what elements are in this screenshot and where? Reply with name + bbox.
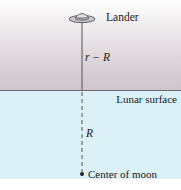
lander-label: Lander: [106, 12, 139, 24]
lander-diagram: Lander r − R Lunar surface R Center of m…: [0, 0, 181, 190]
radius-label: R: [86, 128, 93, 140]
center-dot: [80, 172, 84, 176]
lunar-surface-label: Lunar surface: [116, 94, 177, 105]
center-of-moon-label: Center of moon: [88, 169, 157, 180]
lander-icon: [69, 14, 95, 23]
altitude-label: r − R: [85, 52, 110, 64]
